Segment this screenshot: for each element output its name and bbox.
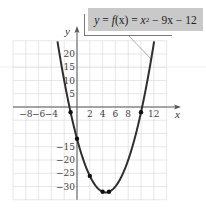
y-tick-label: −20 [56,155,75,165]
data-point [88,174,92,178]
x-tick-label: 2 [87,109,93,119]
marked-points [68,110,143,194]
x-tick-label: −6 [32,109,46,119]
y-axis-label: y [64,25,70,37]
x-tick-label: 4 [100,109,106,119]
formula-eq2: = [128,14,140,26]
y-tick-label: −30 [56,182,75,192]
x-tick-label: 8 [125,109,131,119]
x-tick-label: −4 [45,109,59,119]
parabola-chart: −8−6−42468122015105−15−20−25−30 x y [0,0,206,213]
formula-box-shadow-left [84,14,85,36]
data-point [107,190,111,194]
formula-rest: − 9x − 12 [149,14,196,26]
y-tick-label: −15 [56,142,75,152]
formula-arg: (x) [115,14,128,26]
function-formula-label: y = f (x) = x2 − 9x − 12 [88,8,203,31]
leader-line [128,35,152,60]
x-tick-label: 6 [113,109,119,119]
formula-box-shadow-bottom [84,35,172,36]
x-tick-label: −8 [19,109,33,119]
data-point [100,190,104,194]
x-tick-label: 12 [148,109,159,119]
data-point [139,110,143,114]
formula-eq1: = [99,14,111,26]
x-axis-label: x [174,108,180,120]
y-tick-label: 20 [64,49,76,59]
data-point [68,110,72,114]
y-tick-label: −25 [56,168,75,178]
y-tick-label: 15 [64,62,76,72]
data-point [75,137,79,141]
y-tick-label: 5 [69,89,75,99]
